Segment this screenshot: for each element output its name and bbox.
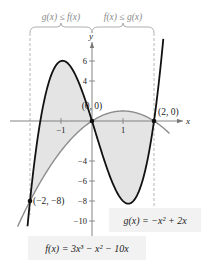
intersection-point-label: (0, 0) bbox=[82, 101, 103, 112]
right-interval-label: f(x) ≤ g(x) bbox=[104, 12, 142, 23]
y-tick-label: −8 bbox=[78, 196, 87, 206]
x-axis-arrow-icon bbox=[177, 119, 183, 123]
x-tick-label: 1 bbox=[121, 125, 125, 135]
g-equation-label: g(x) = −x² + 2x bbox=[123, 215, 187, 227]
intersection-point-label: (−2, −8) bbox=[33, 196, 64, 207]
intersection-point bbox=[28, 199, 33, 204]
f-equation-label: f(x) = 3x³ − x² − 10x bbox=[45, 243, 129, 255]
y-tick-label: −6 bbox=[78, 176, 87, 186]
x-axis-label: x bbox=[185, 116, 190, 126]
area-between-curves-chart: g(x) ≤ f(x)f(x) ≤ g(x) xy−1164−4−6−8−10 … bbox=[0, 0, 203, 262]
intersection-point-label: (2, 0) bbox=[158, 107, 179, 118]
left-interval-label: g(x) ≤ f(x) bbox=[42, 12, 80, 23]
y-axis-label: y bbox=[88, 31, 93, 41]
left-interval-brace bbox=[30, 23, 92, 33]
intersection-point bbox=[90, 119, 95, 124]
right-interval-brace bbox=[92, 23, 154, 33]
y-tick-label: −4 bbox=[78, 156, 88, 166]
x-tick-label: −1 bbox=[56, 125, 65, 135]
labels: g(x) = −x² + 2xf(x) = 3x³ − x² − 10x bbox=[28, 208, 201, 260]
y-tick-label: 4 bbox=[83, 76, 88, 86]
y-tick-label: −10 bbox=[74, 216, 87, 226]
y-tick-label: 6 bbox=[83, 56, 87, 66]
y-axis-arrow-icon bbox=[90, 42, 94, 48]
intersection-point bbox=[152, 119, 157, 124]
